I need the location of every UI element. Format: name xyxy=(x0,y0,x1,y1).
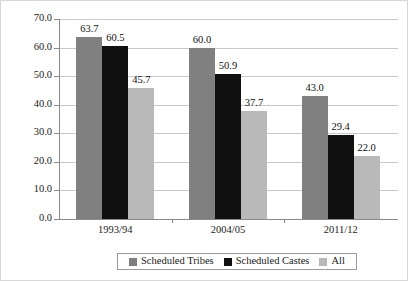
x-axis-tick-label: 2011/12 xyxy=(301,225,381,236)
bar xyxy=(102,46,128,219)
y-axis-tick-label: 20.0 xyxy=(4,156,52,167)
y-axis-tick-label: 40.0 xyxy=(4,99,52,110)
y-axis-tick-label: 0.0 xyxy=(4,213,52,224)
bar-value-label: 29.4 xyxy=(321,122,361,133)
bar xyxy=(189,48,215,219)
y-axis-tick-label: 30.0 xyxy=(4,127,52,138)
bar xyxy=(354,156,380,219)
chart-legend: Scheduled TribesScheduled CastesAll xyxy=(117,253,357,270)
bar-value-label: 22.0 xyxy=(347,143,387,154)
x-axis-tick xyxy=(284,219,285,223)
x-axis-tick-label: 2004/05 xyxy=(188,225,268,236)
bar-value-label: 37.7 xyxy=(234,98,274,109)
plot-area: 63.760.545.760.050.937.743.029.422.0 xyxy=(59,19,397,219)
bar-value-label: 45.7 xyxy=(121,75,161,86)
bar xyxy=(302,96,328,219)
y-axis-tick-label: 50.0 xyxy=(4,70,52,81)
bar-chart: 0.010.020.030.040.050.060.070.0 63.760.5… xyxy=(0,0,408,281)
legend-label: Scheduled Castes xyxy=(236,256,310,267)
legend-item[interactable]: Scheduled Castes xyxy=(224,256,310,267)
y-axis-line xyxy=(59,19,60,220)
x-axis-tick xyxy=(172,219,173,223)
legend-swatch-icon xyxy=(224,258,232,266)
x-axis-line xyxy=(59,219,398,220)
legend-item[interactable]: Scheduled Tribes xyxy=(129,256,214,267)
y-axis-tick-label: 70.0 xyxy=(4,13,52,24)
bar-value-label: 50.9 xyxy=(208,61,248,72)
bar-value-label: 60.0 xyxy=(182,35,222,46)
legend-label: All xyxy=(331,256,344,267)
y-axis-tick-label: 10.0 xyxy=(4,184,52,195)
x-axis-tick-label: 1993/94 xyxy=(75,225,155,236)
bar-value-label: 43.0 xyxy=(295,83,335,94)
bar xyxy=(76,37,102,219)
bar xyxy=(241,111,267,219)
bar-value-label: 60.5 xyxy=(95,33,135,44)
legend-swatch-icon xyxy=(129,258,137,266)
y-axis-tick-label: 60.0 xyxy=(4,42,52,53)
legend-swatch-icon xyxy=(319,258,327,266)
bar xyxy=(128,88,154,219)
bar xyxy=(215,74,241,219)
legend-item[interactable]: All xyxy=(319,256,344,267)
legend-label: Scheduled Tribes xyxy=(141,256,214,267)
